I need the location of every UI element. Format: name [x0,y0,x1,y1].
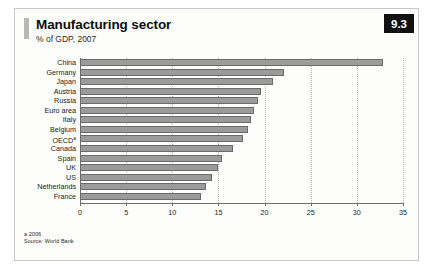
bar [80,97,258,104]
bar [80,183,206,190]
footnote-a: a 2006 [24,231,74,238]
category-label: China [23,58,76,67]
tick-mark [80,203,81,206]
tick-mark [403,203,404,206]
tick-label: 25 [307,208,315,217]
tick-mark [172,203,173,206]
bar [80,155,222,162]
bar [80,116,251,123]
gridline [403,58,404,203]
tick-label: 20 [261,208,269,217]
x-axis-line [80,203,403,204]
category-label: Japan [23,77,76,86]
category-label: France [23,192,76,201]
bar [80,69,284,76]
tick-mark [311,203,312,206]
bar [80,59,383,66]
category-label: Italy [23,115,76,124]
gridline [357,58,358,203]
plot-area: ChinaGermanyJapanAustriaRussiaEuro areaI… [15,9,420,262]
bar [80,78,273,85]
tick-label: 35 [399,208,407,217]
bars-region [80,58,403,203]
category-label: US [23,173,76,182]
bar [80,193,201,200]
category-label: Spain [23,154,76,163]
gridline [311,58,312,203]
tick-label: 10 [168,208,176,217]
tick-label: 5 [124,208,128,217]
category-label: Germany [23,68,76,77]
category-label-superscript: a [73,135,76,141]
tick-mark [218,203,219,206]
bar [80,145,233,152]
bar [80,174,212,181]
tick-label: 0 [78,208,82,217]
category-label: Belgium [23,125,76,134]
bar [80,164,218,171]
category-label: Russia [23,96,76,105]
footnotes: a 2006 Source: World Bank [24,231,74,246]
bar [80,126,248,133]
category-label: Euro area [23,106,76,115]
bar [80,107,254,114]
source-note: Source: World Bank [24,238,74,245]
category-label: Canada [23,144,76,153]
tick-label: 15 [214,208,222,217]
bar [80,88,261,95]
category-label: UK [23,163,76,172]
tick-mark [265,203,266,206]
bar [80,135,243,142]
tick-mark [126,203,127,206]
tick-label: 30 [353,208,361,217]
category-label: Netherlands [23,182,76,191]
category-label: Austria [23,87,76,96]
chart-figure: Manufacturing sector % of GDP, 2007 9.3 … [14,8,419,261]
tick-mark [357,203,358,206]
